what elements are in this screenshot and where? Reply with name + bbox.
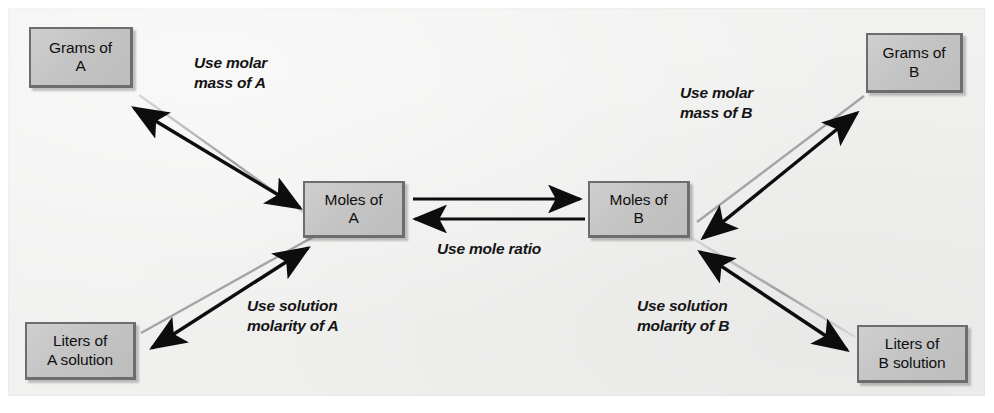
node-liters-of-b-solution[interactable]: Liters of B solution [857,325,968,383]
node-liters-of-b-solution-label: Liters of B solution [878,335,945,372]
edge-label-solution-molarity-a: Use solution molarity of A [247,296,339,336]
edge-label-molar-mass-a: Use molar mass of A [194,53,267,93]
node-moles-of-a[interactable]: Moles of A [303,181,405,238]
node-grams-of-a[interactable]: Grams of A [29,27,133,88]
stoichiometry-diagram: Grams of A Grams of B Moles of A Moles o… [0,0,994,413]
node-moles-of-b[interactable]: Moles of B [588,181,690,238]
node-moles-of-a-label: Moles of A [325,191,383,228]
node-grams-of-b-label: Grams of B [883,44,946,81]
edge-label-mole-ratio: Use mole ratio [437,239,541,259]
node-liters-of-a-solution[interactable]: Liters of A solution [25,322,136,380]
edge-label-molar-mass-b: Use molar mass of B [680,83,753,123]
edge-label-solution-molarity-b: Use solution molarity of B [637,296,729,336]
diagram-panel [8,8,985,396]
node-grams-of-b[interactable]: Grams of B [866,33,963,93]
node-moles-of-b-label: Moles of B [610,191,668,228]
node-grams-of-a-label: Grams of A [49,39,112,76]
node-liters-of-a-solution-label: Liters of A solution [47,332,113,369]
